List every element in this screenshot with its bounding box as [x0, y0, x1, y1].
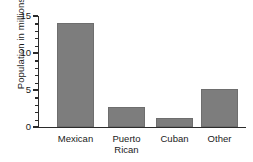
- y-tick-mark-5: [33, 89, 38, 90]
- y-tick-mark-15: [33, 15, 38, 16]
- bar-other: [201, 89, 238, 128]
- y-tick-label-5: 5: [26, 85, 31, 95]
- y-minor-tick-1: [35, 120, 38, 121]
- y-minor-tick-7: [35, 75, 38, 76]
- y-minor-tick-14: [35, 23, 38, 24]
- y-minor-tick-3: [35, 105, 38, 106]
- y-tick-label-10: 10: [20, 48, 31, 58]
- bar-cuban: [156, 118, 193, 127]
- y-minor-tick-2: [35, 112, 38, 113]
- y-tick-mark-0: [33, 126, 38, 127]
- bar-mexican: [57, 23, 94, 127]
- bar-chart: Population in millions 0 5 10 15: [0, 0, 253, 162]
- y-minor-tick-12: [35, 38, 38, 39]
- y-axis-line: [38, 16, 39, 127]
- y-minor-tick-9: [35, 60, 38, 61]
- y-minor-tick-6: [35, 83, 38, 84]
- y-tick-label-0: 0: [26, 122, 31, 132]
- plot-area: 0 5 10 15 Mexican Pu: [38, 16, 246, 127]
- y-minor-tick-4: [35, 97, 38, 98]
- x-label-other: Other: [190, 133, 249, 144]
- y-minor-tick-8: [35, 68, 38, 69]
- y-tick-mark-10: [33, 52, 38, 53]
- bar-puerto-rican: [108, 107, 145, 127]
- y-tick-label-15: 15: [20, 11, 31, 21]
- y-minor-tick-11: [35, 46, 38, 47]
- y-minor-tick-13: [35, 31, 38, 32]
- x-axis-line: [38, 127, 246, 128]
